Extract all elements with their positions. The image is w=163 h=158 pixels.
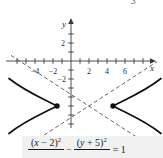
x-tick-label-6: 6 <box>123 67 127 76</box>
equation-first-numerator: (x − 2)2 <box>28 137 64 149</box>
x-tick-label-2: 2 <box>87 67 91 76</box>
hyperbola-right-branch <box>113 79 161 134</box>
y-tick-label-2: 2 <box>61 39 65 48</box>
y-axis-arrow-icon <box>68 18 74 24</box>
equation-second-fraction-bar <box>74 149 110 150</box>
y-tick-label-minus2: −2 <box>57 75 66 84</box>
plot-area: −4 −2 2 4 6 2 −2 y x <box>0 0 163 136</box>
equation-equals-one: = 1 <box>110 144 126 156</box>
x-tick-label-minus2: −2 <box>49 67 58 76</box>
equation-caption-panel: (x − 2)2 − (y + 5)2 = 1 <box>22 136 163 158</box>
x-axis-label: x <box>149 63 154 73</box>
equation-second-numerator: (y + 5)2 <box>74 137 110 149</box>
equation-second-fraction: (y + 5)2 <box>74 137 110 151</box>
plot-svg: −4 −2 2 4 6 2 −2 y x <box>0 0 163 136</box>
y-axis-label: y <box>61 19 66 29</box>
equation-first-fraction: (x − 2)2 <box>28 137 64 151</box>
hyperbola-figure: 3 <box>0 0 163 158</box>
equation-operator: − <box>64 144 74 156</box>
equation-first-fraction-bar <box>28 149 64 150</box>
hyperbola-left-branch <box>9 79 57 134</box>
vertex-marker-right <box>110 103 115 108</box>
hyperbola-equation: (x − 2)2 − (y + 5)2 = 1 <box>28 137 126 156</box>
vertex-marker-left <box>54 103 59 108</box>
x-tick-label-4: 4 <box>105 67 109 76</box>
